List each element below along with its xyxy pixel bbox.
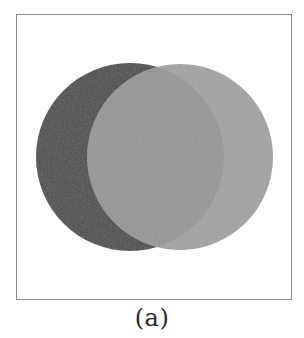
figure-caption: (a) [0, 303, 304, 333]
light-circle [87, 64, 273, 250]
venn-diagram [0, 0, 304, 338]
